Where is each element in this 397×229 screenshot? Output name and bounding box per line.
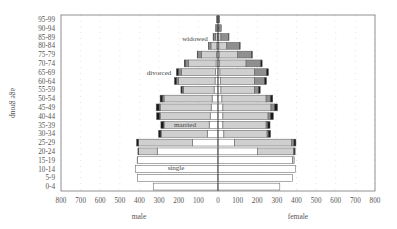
bar-female-widowed-50-54: [266, 95, 270, 102]
population-pyramid-chart: 0-45-910-1415-1920-2425-2930-3435-3940-4…: [0, 0, 397, 229]
bars: [136, 16, 296, 190]
bar-female-divorced-20-24: [294, 148, 295, 155]
bar-male-married-85-89: [215, 34, 217, 41]
bar-female-divorced-50-54: [270, 95, 272, 102]
y-tick-label: 20-24: [38, 148, 55, 156]
y-tick-label: 80-84: [38, 42, 55, 50]
y-axis-label: age group: [9, 88, 18, 118]
bar-male-single-30-34: [207, 130, 218, 137]
bar-female-widowed-80-84: [227, 42, 240, 49]
bar-male-married-40-44: [160, 113, 210, 120]
bar-male-single-35-39: [209, 122, 218, 129]
bar-female-single-0-4: [218, 183, 280, 190]
bar-male-married-80-84: [211, 42, 217, 49]
bar-female-married-45-49: [223, 104, 271, 111]
y-tick-label: 45-49: [38, 104, 55, 112]
bar-male-married-75-79: [202, 51, 217, 58]
bar-male-single-0-4: [153, 183, 218, 190]
bar-female-widowed-85-89: [221, 34, 229, 41]
bar-female-widowed-95-99: [218, 16, 219, 23]
bar-male-widowed-90-94: [215, 25, 217, 32]
bar-female-divorced-30-34: [268, 130, 270, 137]
x-tick-label: 100: [232, 197, 243, 205]
y-tick-label: 85-89: [38, 34, 55, 42]
bar-female-single-55-59: [218, 86, 221, 93]
bar-female-married-30-34: [224, 130, 267, 137]
bar-female-divorced-35-39: [268, 122, 270, 129]
bar-male-widowed-75-79: [198, 51, 202, 58]
bar-male-married-55-59: [184, 86, 214, 93]
bar-male-single-55-59: [214, 86, 218, 93]
y-tick-label: 40-44: [38, 113, 55, 121]
bar-male-widowed-70-74: [185, 60, 188, 67]
bar-female-single-20-24: [218, 148, 257, 155]
bar-male-married-65-69: [181, 69, 215, 76]
annotation-married: married: [174, 121, 196, 129]
bar-male-widowed-60-64: [176, 78, 178, 85]
bar-female-single-5-9: [218, 174, 293, 181]
bar-female-single-10-14: [218, 166, 296, 173]
bar-male-divorced-65-69: [176, 69, 178, 76]
annotation-divorced: divorced: [147, 69, 172, 77]
bar-male-divorced-40-44: [157, 113, 160, 120]
bar-male-divorced-25-29: [137, 139, 139, 146]
bar-male-divorced-35-39: [161, 122, 164, 129]
bar-female-married-20-24: [257, 148, 293, 155]
bar-female-widowed-55-59: [254, 86, 258, 93]
bar-female-single-30-34: [218, 130, 224, 137]
bar-male-single-60-64: [215, 78, 218, 85]
bar-female-divorced-80-84: [240, 42, 241, 49]
y-tick-label: 0-4: [45, 183, 55, 191]
x-tick-label: 700: [75, 197, 86, 205]
bar-female-widowed-45-49: [271, 104, 275, 111]
y-tick-label: 50-54: [38, 95, 55, 103]
bar-female-married-15-19: [293, 157, 295, 164]
annotation-single: single: [168, 164, 185, 172]
bar-male-married-45-49: [160, 104, 211, 111]
bar-male-married-70-74: [189, 60, 216, 67]
bar-female-married-85-89: [219, 34, 221, 41]
bar-male-single-20-24: [157, 148, 218, 155]
bar-female-divorced-70-74: [261, 60, 262, 67]
y-tick-label: 25-29: [38, 139, 55, 147]
bar-male-single-45-49: [211, 104, 218, 111]
bar-male-married-60-64: [179, 78, 215, 85]
bar-female-divorced-40-44: [270, 113, 273, 120]
x-label-female: female: [288, 212, 309, 221]
bar-male-single-5-9: [138, 174, 218, 181]
x-tick-label: 500: [114, 197, 125, 205]
bar-male-single-25-29: [192, 139, 218, 146]
bar-female-single-45-49: [218, 104, 223, 111]
bar-female-married-55-59: [221, 86, 254, 93]
bar-female-single-40-44: [218, 113, 223, 120]
bar-female-widowed-90-94: [219, 25, 221, 32]
y-tick-label: 5-9: [45, 174, 55, 182]
bar-male-single-50-54: [212, 95, 218, 102]
x-tick-label: 300: [271, 197, 282, 205]
y-tick-label: 30-34: [38, 130, 55, 138]
y-tick-label: 70-74: [38, 60, 55, 68]
bar-female-divorced-25-29: [294, 139, 296, 146]
x-tick-label: 0: [216, 197, 220, 205]
bar-female-married-25-29: [235, 139, 292, 146]
bar-male-divorced-75-79: [197, 51, 198, 58]
bar-female-married-35-39: [223, 122, 266, 129]
bar-female-divorced-65-69: [266, 69, 268, 76]
y-tick-label: 35-39: [38, 122, 55, 130]
x-tick-label: 700: [350, 197, 361, 205]
bar-male-single-40-44: [210, 113, 218, 120]
bar-male-divorced-60-64: [174, 78, 176, 85]
x-tick-label: 200: [252, 197, 263, 205]
bar-female-widowed-70-74: [246, 60, 261, 67]
bar-male-single-15-19: [138, 157, 218, 164]
bar-female-married-40-44: [223, 113, 268, 120]
x-tick-label: 600: [330, 197, 341, 205]
bar-female-divorced-45-49: [275, 104, 278, 111]
bar-female-single-35-39: [218, 122, 223, 129]
bar-male-married-25-29: [139, 139, 193, 146]
bar-female-divorced-60-64: [265, 78, 267, 85]
y-tick-label: 65-69: [38, 69, 55, 77]
bar-female-married-50-54: [222, 95, 266, 102]
bar-male-divorced-30-34: [159, 130, 161, 137]
y-tick-label: 10-14: [38, 166, 55, 174]
